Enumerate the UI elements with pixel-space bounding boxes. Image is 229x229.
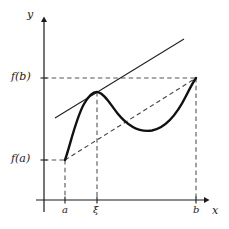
x-tick-label-a: a	[62, 205, 68, 215]
x-axis-label: x	[212, 205, 218, 216]
plot-canvas	[0, 0, 229, 229]
y-axis-arrow-icon	[41, 17, 47, 23]
tangent-line-at-xi	[55, 39, 184, 118]
y-value-label-fa: f(a)	[11, 153, 30, 164]
x-axis-arrow-icon	[204, 197, 210, 203]
mean-value-theorem-figure: y x f(b) f(a) a ξ b	[0, 0, 229, 229]
y-value-label-fb: f(b)	[11, 71, 31, 82]
secant-line-ab	[65, 78, 196, 160]
x-tick-label-b: b	[193, 205, 199, 215]
y-axis-label: y	[27, 9, 33, 20]
tick-marks-group	[41, 78, 197, 204]
guide-lines-group	[44, 78, 196, 200]
x-tick-label-xi: ξ	[93, 205, 99, 215]
